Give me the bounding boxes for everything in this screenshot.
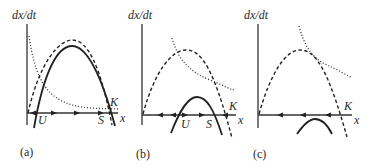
figure-canvas: dx/dt x U S K (a) dx/dt x	[0, 0, 373, 168]
caption-a: (a)	[20, 145, 33, 159]
point-U-b: U	[181, 117, 191, 131]
solid-curve-b	[171, 97, 222, 135]
arrow-right-icon	[199, 113, 205, 118]
caption-b: (b)	[136, 147, 150, 161]
x-axis-label-c: x	[353, 113, 360, 127]
point-K-b: K	[228, 99, 238, 113]
arrow-left-icon	[30, 111, 36, 116]
dotted-curve-b	[172, 38, 236, 90]
panel-b: dx/dt x U S K (b)	[128, 8, 244, 161]
dashed-curve-c	[259, 50, 347, 137]
x-axis-label-a: x	[119, 111, 126, 125]
point-S-a: S	[98, 113, 104, 127]
panel-a: dx/dt x U S K (a)	[12, 8, 126, 159]
panel-c: dx/dt x K (c)	[244, 8, 360, 161]
point-K-a: K	[109, 95, 119, 109]
solid-curve-c	[297, 119, 332, 134]
caption-c: (c)	[253, 147, 266, 161]
point-S-b: S	[206, 117, 212, 131]
y-axis-label-a: dx/dt	[12, 8, 37, 22]
arrow-left-icon	[157, 113, 163, 118]
y-axis-label-b: dx/dt	[128, 8, 153, 22]
y-axis-label-c: dx/dt	[244, 8, 269, 22]
arrow-left-icon	[277, 113, 283, 118]
arrow-right-icon	[74, 111, 80, 116]
point-K-c: K	[343, 99, 353, 113]
arrow-left-icon	[170, 113, 176, 118]
point-U-a: U	[38, 113, 48, 127]
x-axis-label-b: x	[237, 113, 244, 127]
arrow-left-icon	[300, 113, 306, 118]
arrow-right-icon	[51, 111, 57, 116]
arrow-left-icon	[325, 113, 331, 118]
